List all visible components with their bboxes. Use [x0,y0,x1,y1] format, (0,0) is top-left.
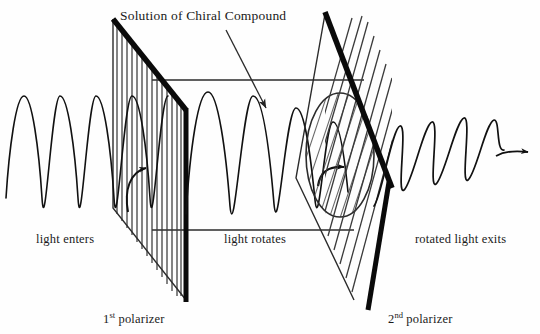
exit-light-wave [374,118,504,206]
incoming-light-wave [6,96,168,207]
polarizer-one [113,19,186,302]
label-first-polarizer: 1st polarizer [103,310,165,327]
sample-tube-end-cap [284,44,392,274]
rotating-light-wave [186,92,348,214]
label-light-rotates: light rotates [224,232,286,247]
optical-rotation-diagram: Solution of Chiral Compound light enters… [0,0,540,334]
label-light-enters: light enters [36,232,94,247]
label-second-polarizer: 2nd polarizer [388,310,453,327]
polarizer-two-frame-post [368,182,389,310]
figure-title: Solution of Chiral Compound [120,8,286,24]
second-polarizer-suffix: nd [394,310,403,320]
diagram-canvas [0,0,540,334]
title-leader-line [226,30,266,108]
label-rotated-light-exits: rotated light exits [415,232,506,247]
exit-direction-arrow [496,151,528,156]
second-polarizer-word: polarizer [403,312,453,326]
polarizer-one-frame-top [113,19,186,110]
first-polarizer-word: polarizer [115,312,165,326]
